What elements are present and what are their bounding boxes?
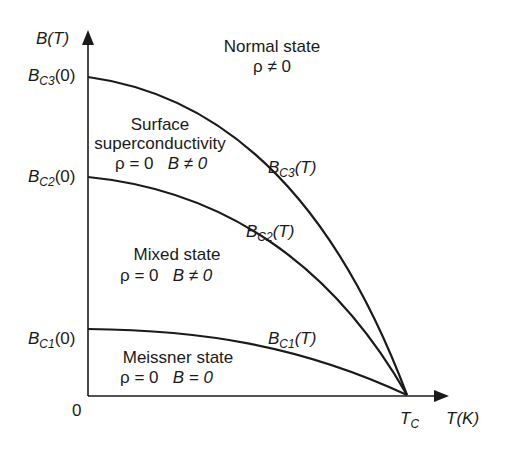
tick-sub: C3 xyxy=(39,74,54,88)
curve-main: B xyxy=(246,222,257,241)
x-axis-label: T(K) xyxy=(446,409,479,428)
curve-sub: C1 xyxy=(279,337,294,351)
cond-rho: ρ = 0 xyxy=(120,266,159,285)
y-axis-label: B(T) xyxy=(36,29,69,48)
tick-sub: C1 xyxy=(39,337,54,351)
tick-tail: (0) xyxy=(55,329,76,348)
origin-label: 0 xyxy=(72,401,81,420)
cond-b: B = 0 xyxy=(173,368,213,387)
cond-rho: ρ = 0 xyxy=(120,368,159,387)
tick-main: B xyxy=(28,329,39,348)
bc2-zero-label: BC2(0) xyxy=(28,167,75,186)
tc-main: T xyxy=(400,409,410,428)
bc3-curve-label: BC3(T) xyxy=(268,158,316,177)
cond-b: B ≠ 0 xyxy=(168,154,208,173)
curve-tail: (T) xyxy=(295,329,317,348)
curve-sub: C2 xyxy=(257,230,272,244)
tick-main: B xyxy=(28,66,39,85)
tick-tail: (0) xyxy=(55,66,76,85)
curve-tail: (T) xyxy=(273,222,295,241)
x-axis-arrow-icon xyxy=(434,390,449,402)
normal-state-title: Normal state xyxy=(224,37,320,56)
curve-main: B xyxy=(268,158,279,177)
surface-title-1: Surface xyxy=(131,115,190,134)
bc1-zero-label: BC1(0) xyxy=(28,329,75,348)
cond-rho: ρ = 0 xyxy=(115,154,154,173)
tick-tail: (0) xyxy=(55,167,76,186)
tick-sub: C2 xyxy=(39,175,54,189)
bc3-zero-label: BC3(0) xyxy=(28,66,75,85)
bc2-curve-label: BC2(T) xyxy=(246,222,294,241)
mixed-state-cond: ρ = 0 B ≠ 0 xyxy=(120,266,212,285)
y-axis-arrow-icon xyxy=(82,30,94,45)
tc-sub: C xyxy=(410,417,419,431)
normal-state-cond: ρ ≠ 0 xyxy=(253,57,291,76)
cond-b: B ≠ 0 xyxy=(173,266,213,285)
surface-title-2: superconductivity xyxy=(94,134,225,153)
surface-cond: ρ = 0 B ≠ 0 xyxy=(115,154,207,173)
curve-sub: C3 xyxy=(279,166,294,180)
tick-main: B xyxy=(28,167,39,186)
meissner-state-title: Meissner state xyxy=(123,348,234,367)
curve-tail: (T) xyxy=(295,158,317,177)
curve-main: B xyxy=(268,329,279,348)
bc1-curve-label: BC1(T) xyxy=(268,329,316,348)
tc-label: TC xyxy=(400,409,419,428)
meissner-state-cond: ρ = 0 B = 0 xyxy=(120,368,213,387)
mixed-state-title: Mixed state xyxy=(134,245,221,264)
